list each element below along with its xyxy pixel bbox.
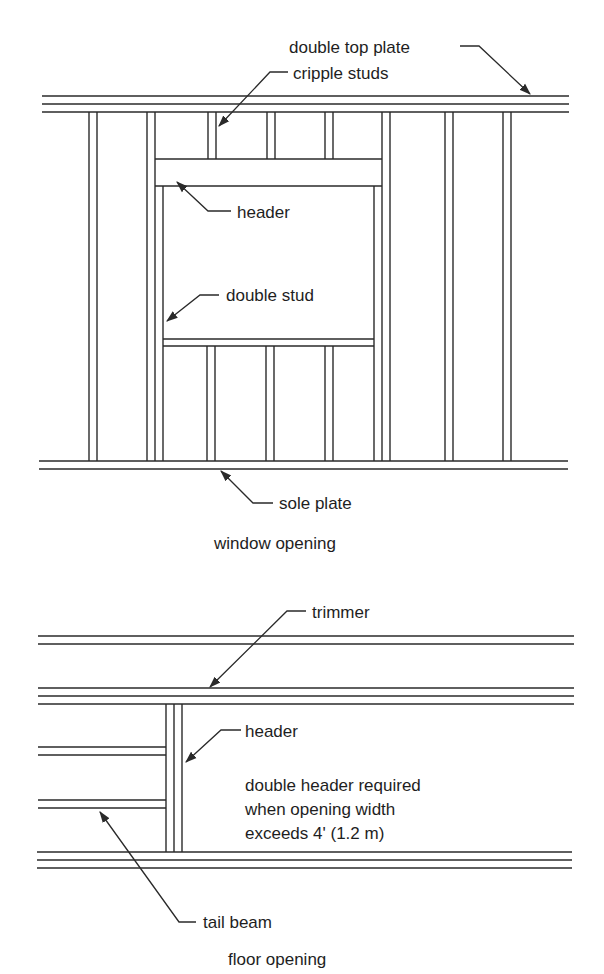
window-sill xyxy=(163,339,374,346)
label-double-stud: double stud xyxy=(226,286,314,305)
label-cripple-studs: cripple studs xyxy=(293,64,388,83)
label-double-top-plate: double top plate xyxy=(289,38,410,57)
label-tail-beam: tail beam xyxy=(203,913,272,932)
caption-floor-opening: floor opening xyxy=(228,950,326,969)
bottom-trimmer-joist xyxy=(37,852,572,868)
label-trimmer: trimmer xyxy=(312,603,370,622)
floor-header xyxy=(166,704,182,852)
leader-double-top-plate xyxy=(460,46,530,94)
leader-cripple-studs xyxy=(219,72,288,126)
leader-trimmer xyxy=(210,611,306,687)
label-floor-header: header xyxy=(245,722,298,741)
cripple-studs-top xyxy=(208,112,333,159)
label-header: header xyxy=(237,203,290,222)
sole-plate xyxy=(39,461,568,469)
tail-beams xyxy=(38,747,166,808)
label-sole-plate: sole plate xyxy=(279,494,352,513)
leader-floor-header xyxy=(186,730,241,762)
note-line-2: when opening width xyxy=(244,800,395,819)
right-double-stud xyxy=(374,112,390,461)
note-line-3: exceeds 4' (1.2 m) xyxy=(245,824,384,843)
trimmer-joist xyxy=(38,688,574,704)
framing-diagram: double top plate cripple studs header do… xyxy=(0,0,604,974)
double-top-plate xyxy=(42,96,569,112)
note-line-1: double header required xyxy=(245,776,421,795)
caption-window-opening: window opening xyxy=(213,534,336,553)
window-header xyxy=(155,159,382,186)
cripple-studs-bottom xyxy=(207,346,333,461)
window-opening-diagram: double top plate cripple studs header do… xyxy=(39,38,569,553)
left-double-stud xyxy=(147,112,163,461)
leader-double-stud xyxy=(167,295,219,321)
leader-sole-plate xyxy=(221,471,273,503)
top-joist xyxy=(38,636,574,644)
floor-opening-diagram: trimmer header double header required wh… xyxy=(37,603,574,969)
